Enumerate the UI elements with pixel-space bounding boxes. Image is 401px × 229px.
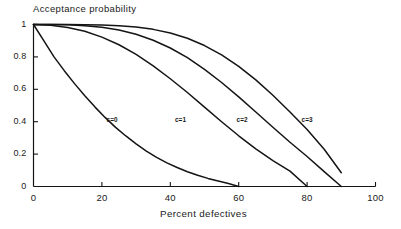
y-tick-label: 0.6 [0, 83, 27, 93]
x-tick-label: 100 [356, 192, 396, 203]
y-tick-label: 0.8 [0, 51, 27, 61]
x-tick-label: 0 [14, 192, 54, 203]
axes [34, 25, 376, 187]
x-tick-label: 40 [150, 192, 190, 203]
curve-c-2 [34, 25, 342, 187]
y-tick-label: 0.4 [0, 116, 27, 126]
curve-label-c-3: c=3 [302, 116, 313, 123]
x-tick-label: 20 [82, 192, 122, 203]
curve-c-3 [34, 25, 342, 173]
y-tick-label: 1 [0, 19, 27, 29]
curve-paths [34, 25, 342, 187]
y-tick-label: 0.2 [0, 148, 27, 158]
plot-area [0, 0, 401, 229]
curve-label-c-1: c=1 [175, 116, 186, 123]
oc-curve-chart: Acceptance probability Percent defective… [0, 0, 401, 229]
curve-label-c-0: c=0 [107, 116, 118, 123]
curve-label-c-2: c=2 [237, 116, 248, 123]
x-tick-label: 80 [287, 192, 327, 203]
x-tick-label: 60 [219, 192, 259, 203]
y-tick-label: 0 [0, 181, 27, 191]
curve-c-0 [34, 25, 239, 187]
